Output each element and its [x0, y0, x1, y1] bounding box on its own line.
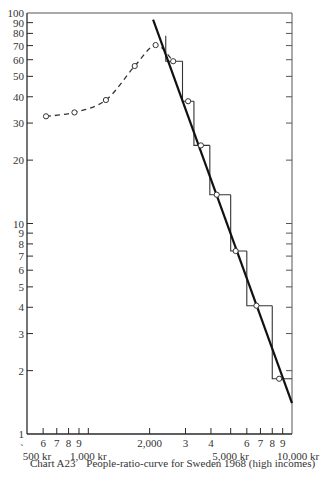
chart-axes: [27, 13, 292, 434]
caption-title: People-ratio-curve for Sweden 1968 (high…: [86, 457, 315, 469]
chart-caption: Chart A23 People-ratio-curve for Sweden …: [30, 457, 315, 469]
y-tick-label: 20: [13, 154, 25, 166]
y-tick-label: 5: [19, 281, 25, 293]
y-tick-label: 70: [13, 40, 25, 52]
step-midpoint-circle: [198, 143, 203, 148]
y-tick-label: 10: [13, 218, 25, 230]
dashed-curve: [46, 45, 173, 116]
data-point-markers: [43, 42, 281, 381]
x-tick-label: 6: [244, 437, 250, 449]
caption-id: Chart A23: [30, 457, 76, 469]
y-tick-label: 8: [19, 238, 25, 250]
y-tick-label: 6: [19, 264, 25, 276]
step-histogram: [166, 36, 292, 379]
y-tick-label: 4: [19, 301, 25, 313]
data-point-circle: [132, 63, 137, 68]
y-tick-label: 3: [19, 328, 25, 340]
x-tick-label: 9: [76, 437, 82, 449]
x-tick-label: 3: [183, 437, 189, 449]
y-tick-label: 7: [19, 250, 25, 262]
y-tick-label: 60: [13, 54, 25, 66]
print-mark: `: [20, 442, 24, 454]
y-tick-label: 2: [19, 365, 25, 377]
data-point-circle: [103, 97, 108, 102]
x-tick-label: 4: [208, 437, 214, 449]
y-tick-label: 40: [13, 91, 25, 103]
x-tick-label: 8: [270, 437, 276, 449]
data-point-circle: [153, 42, 158, 47]
step-midpoint-circle: [277, 376, 282, 381]
people-ratio-chart: 123456789102030405060708090100 500 kr678…: [0, 0, 328, 478]
step-midpoint-circle: [186, 99, 191, 104]
step-midpoint-circle: [233, 248, 238, 253]
x-tick-label: 2,000: [137, 437, 162, 449]
x-tick-label: 7: [258, 437, 264, 449]
step-outline: [166, 36, 292, 379]
observed-dashed-curve: [46, 45, 173, 116]
x-tick-label: 7: [54, 437, 60, 449]
step-midpoint-circle: [171, 59, 176, 64]
y-axis-ticks: 123456789102030405060708090100: [8, 7, 293, 440]
x-tick-label: 8: [66, 437, 72, 449]
y-tick-label: 30: [13, 117, 25, 129]
data-point-circle: [72, 110, 77, 115]
x-tick-label: 9: [280, 437, 286, 449]
data-point-circle: [43, 114, 48, 119]
y-tick-label: 80: [13, 27, 25, 39]
y-tick-label: 1: [19, 428, 25, 440]
pareto-fit-line: [153, 20, 292, 404]
fitted-line: [153, 20, 292, 404]
x-tick-label: 6: [40, 437, 46, 449]
y-tick-label: 50: [13, 70, 25, 82]
step-midpoint-circle: [214, 192, 219, 197]
step-midpoint-circle: [254, 303, 259, 308]
y-tick-label: 100: [8, 7, 25, 19]
